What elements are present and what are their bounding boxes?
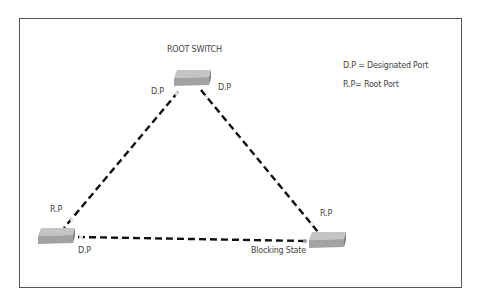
root-switch-label: ROOT SWITCH (167, 45, 222, 54)
port-label-left-right: D.P (78, 246, 91, 255)
legend-designated-port: D.P = Designated Port (343, 61, 428, 70)
topology-svg (0, 0, 482, 302)
switch-icon[interactable] (38, 228, 75, 244)
port-label-right-up: R.P (320, 209, 332, 218)
port-label-root-right: D.P (218, 83, 231, 92)
port-label-left-up: R.P (50, 205, 62, 214)
link-root-left (64, 92, 178, 228)
switch-icon[interactable] (174, 70, 211, 86)
links (64, 90, 318, 241)
link-root-right (201, 90, 318, 232)
port-dots (70, 92, 314, 243)
port-label-root-left: D.P (151, 87, 164, 96)
legend-root-port: R.P= Root Port (343, 80, 399, 89)
blocking-state-label: Blocking State (251, 246, 306, 255)
switch-icon[interactable] (309, 232, 346, 248)
link-left-right (78, 237, 306, 241)
